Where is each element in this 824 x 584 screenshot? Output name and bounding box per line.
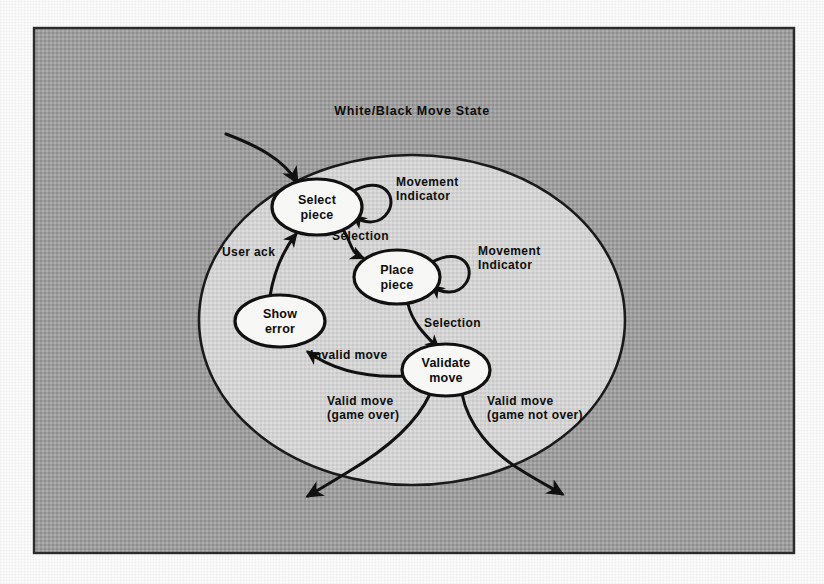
- state-validate-move-shape: [402, 344, 490, 396]
- label-valid-move-game-not-over-line1: Valid move: [487, 394, 554, 408]
- state-show-error-shape: [235, 295, 325, 347]
- label-selection-2: Selection: [424, 316, 481, 330]
- label-valid-move-game-over-line2: (game over): [327, 408, 399, 422]
- label-valid-move-game-over-line1: Valid move: [327, 394, 394, 408]
- state-place-piece-shape: [354, 250, 440, 304]
- state-place-piece-label-line2: piece: [381, 278, 414, 292]
- state-diagram: White/Black Move State Movement Indicato…: [0, 0, 824, 584]
- state-place-piece-label-line1: Place: [380, 263, 414, 277]
- state-validate-move[interactable]: Validate move: [402, 344, 490, 396]
- state-show-error-label-line1: Show: [263, 307, 297, 321]
- label-valid-move-game-not-over-line2: (game not over): [487, 408, 583, 422]
- diagram-title: White/Black Move State: [334, 104, 490, 118]
- state-select-piece-shape: [272, 179, 362, 235]
- label-select-movement-indicator-line1: Movement: [396, 175, 459, 189]
- state-show-error[interactable]: Show error: [235, 295, 325, 347]
- state-select-piece-label-line1: Select: [298, 193, 337, 207]
- label-select-movement-indicator-line2: Indicator: [396, 189, 450, 203]
- state-place-piece[interactable]: Place piece: [354, 250, 440, 304]
- state-validate-move-label-line1: Validate: [422, 356, 471, 370]
- label-invalid-move: Invalid move: [310, 348, 388, 362]
- label-place-movement-indicator-line2: Indicator: [478, 258, 532, 272]
- state-select-piece[interactable]: Select piece: [272, 179, 362, 235]
- state-show-error-label-line2: error: [265, 322, 295, 336]
- label-place-movement-indicator-line1: Movement: [478, 244, 541, 258]
- state-validate-move-label-line2: move: [429, 371, 462, 385]
- label-user-ack: User ack: [222, 245, 275, 259]
- state-select-piece-label-line2: piece: [301, 208, 334, 222]
